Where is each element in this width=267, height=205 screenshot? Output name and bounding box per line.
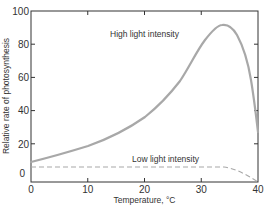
y-axis-title: Relative rate of photosynthesis — [1, 38, 11, 154]
y-tick-label: 100 — [12, 6, 29, 17]
high-light-label: High light intensity — [110, 29, 180, 39]
y-ticks — [31, 44, 258, 144]
y-tick-label: 80 — [18, 39, 30, 50]
x-tick-label: 40 — [252, 184, 264, 195]
x-tick-label: 20 — [139, 184, 151, 195]
y-tick-label: 60 — [18, 72, 30, 83]
y-tick-label: 40 — [18, 105, 30, 116]
x-tick-label: 30 — [196, 184, 208, 195]
high-light-curve — [31, 25, 258, 162]
low-light-label: Low light intensity — [132, 154, 200, 164]
y-tick-label: 0 — [19, 168, 25, 179]
x-tick-label: 10 — [82, 184, 94, 195]
x-axis-title: Temperature, °C — [114, 195, 176, 205]
photosynthesis-chart: 100 80 60 40 20 0 0 10 20 30 40 Temperat… — [0, 0, 267, 205]
x-tick-label: 0 — [28, 184, 34, 195]
y-tick-label: 20 — [18, 139, 30, 150]
